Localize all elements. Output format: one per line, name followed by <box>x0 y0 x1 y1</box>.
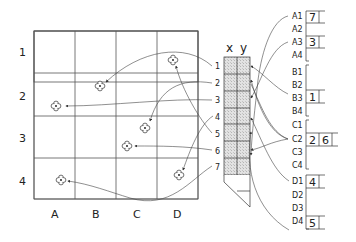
row-label-3: 3 <box>19 132 26 145</box>
table-links <box>249 16 289 230</box>
tape-header-x: x <box>226 41 233 55</box>
row-label-2: 2 <box>19 90 26 103</box>
table-value-c2-first: 2 <box>309 134 316 147</box>
diagram-canvas: 1 2 3 4 A B C D <box>0 0 356 242</box>
col-label-c: C <box>133 208 141 221</box>
table-key-d3: D3 <box>292 204 303 213</box>
col-label-d: D <box>173 208 181 221</box>
tape-label-5: 5 <box>215 130 220 139</box>
tape-label-6: 6 <box>215 147 220 156</box>
table-value-d1: 4 <box>309 176 316 189</box>
tape-label-2: 2 <box>215 79 220 88</box>
table-key-b4: B4 <box>292 107 303 116</box>
table-key-c2: C2 <box>292 135 303 144</box>
coordinate-tape <box>224 57 250 207</box>
table-key-a2: A2 <box>292 25 303 34</box>
table-value-d4: 5 <box>309 217 316 230</box>
table-key-b3: B3 <box>292 94 303 103</box>
table-key-d4: D4 <box>292 217 303 226</box>
marker-icon <box>95 81 105 91</box>
table-key-b2: B2 <box>292 81 303 90</box>
marker-icon <box>174 170 184 180</box>
row-label-4: 4 <box>19 175 26 188</box>
col-label-a: A <box>51 208 59 221</box>
table-key-a4: A4 <box>292 51 303 60</box>
table-key-c4: C4 <box>292 161 303 170</box>
tape-header-y: y <box>240 41 247 55</box>
lookup-table-keys: A1 A2 A3 A4 B1 B2 B3 B4 C1 C2 C3 C4 D1 D… <box>292 12 303 226</box>
marker-icon <box>140 123 150 133</box>
marker-icon <box>56 175 66 185</box>
table-key-a1: A1 <box>292 12 303 21</box>
leader-lines <box>66 52 213 201</box>
tape-label-1: 1 <box>215 62 220 71</box>
table-value-a1: 7 <box>309 11 316 24</box>
table-key-d1: D1 <box>292 177 303 186</box>
table-key-c1: C1 <box>292 121 303 130</box>
table-value-b3: 1 <box>309 91 316 104</box>
table-key-b1: B1 <box>292 68 303 77</box>
tape-label-7: 7 <box>215 163 220 172</box>
table-key-a3: A3 <box>292 38 303 47</box>
table-key-d2: D2 <box>292 191 303 200</box>
tape-label-3: 3 <box>215 96 220 105</box>
table-key-c3: C3 <box>292 148 303 157</box>
row-label-1: 1 <box>19 46 26 59</box>
col-label-b: B <box>92 208 100 221</box>
tape-label-4: 4 <box>215 113 220 122</box>
table-value-c2-second: 6 <box>322 134 329 147</box>
marker-icon <box>168 55 178 65</box>
table-value-a3: 3 <box>309 36 316 49</box>
marker-icon <box>51 101 61 111</box>
marker-icon <box>122 141 132 151</box>
